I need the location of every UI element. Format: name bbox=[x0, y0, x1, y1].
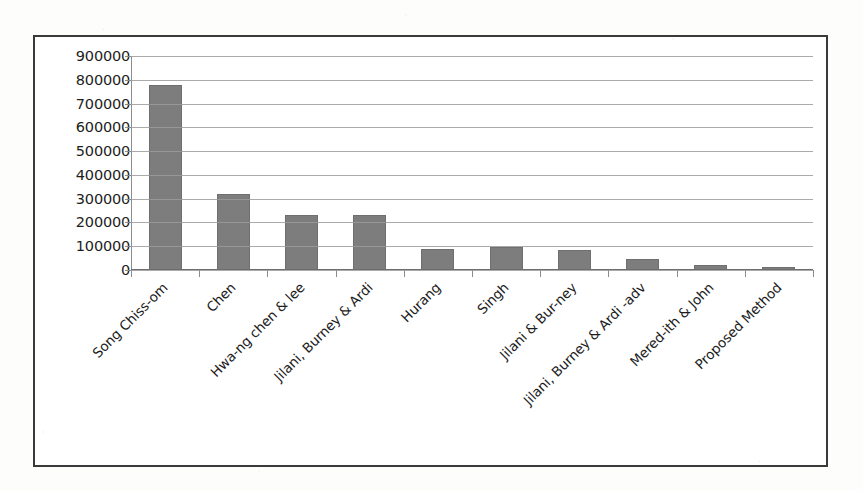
gridline bbox=[131, 222, 813, 223]
bar[interactable] bbox=[490, 247, 523, 270]
y-axis-tick bbox=[125, 199, 131, 200]
y-axis-tick bbox=[125, 104, 131, 105]
y-axis-tick-label: 900000 bbox=[45, 49, 130, 64]
y-axis-tick-label: 700000 bbox=[45, 97, 130, 112]
gridline bbox=[131, 104, 813, 105]
bar[interactable] bbox=[149, 85, 182, 270]
gridline bbox=[131, 246, 813, 247]
gridline bbox=[131, 270, 813, 271]
y-axis-tick-labels: 9000008000007000006000005000004000003000… bbox=[45, 49, 130, 269]
chart-plot-wrapper: 9000008000007000006000005000004000003000… bbox=[35, 37, 830, 469]
y-axis-tick bbox=[125, 270, 131, 271]
y-axis-tick bbox=[125, 175, 131, 176]
x-axis-label: Song Chiss-om bbox=[0, 279, 171, 491]
y-axis-tick-label: 200000 bbox=[45, 215, 130, 230]
y-axis-tick bbox=[125, 151, 131, 152]
gridline bbox=[131, 56, 813, 57]
gridline bbox=[131, 80, 813, 81]
y-axis-tick-label: 400000 bbox=[45, 168, 130, 183]
y-axis-tick-label: 300000 bbox=[45, 192, 130, 207]
gridline bbox=[131, 151, 813, 152]
y-axis-tick bbox=[125, 56, 131, 57]
gridline bbox=[131, 199, 813, 200]
plot-area bbox=[131, 56, 813, 270]
gridline bbox=[131, 127, 813, 128]
y-axis-tick-label: 600000 bbox=[45, 120, 130, 135]
y-axis-tick-label: 0 bbox=[45, 263, 130, 278]
y-axis-tick-label: 800000 bbox=[45, 73, 130, 88]
bar[interactable] bbox=[558, 250, 591, 270]
y-axis-tick-label: 500000 bbox=[45, 144, 130, 159]
bar[interactable] bbox=[421, 249, 454, 270]
x-axis-category-labels: Song Chiss-omChenHwa-ng chen & leeJilani… bbox=[131, 273, 831, 463]
chart-frame: 9000008000007000006000005000004000003000… bbox=[33, 35, 828, 467]
y-axis-tick bbox=[125, 246, 131, 247]
bars-layer bbox=[131, 56, 813, 270]
y-axis-tick-label: 100000 bbox=[45, 239, 130, 254]
y-axis-tick bbox=[125, 80, 131, 81]
y-axis-tick bbox=[125, 222, 131, 223]
bar[interactable] bbox=[285, 215, 318, 270]
gridline bbox=[131, 175, 813, 176]
bar[interactable] bbox=[353, 215, 386, 270]
bar[interactable] bbox=[217, 194, 250, 270]
y-axis-tick bbox=[125, 127, 131, 128]
